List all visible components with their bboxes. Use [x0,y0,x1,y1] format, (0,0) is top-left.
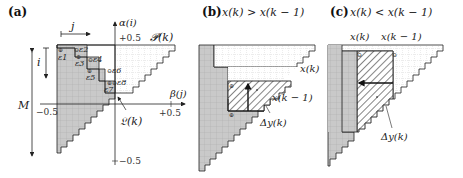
epsilon-6: ε6 [112,66,121,75]
minus-marker-right-c: ⊖ [392,51,397,58]
alpha-label: α(i) [119,17,137,28]
i-label: i [37,56,41,69]
epsilon-8: ε8 [117,78,126,87]
panel-b: (b) x(k) > x(k − 1) ⊕ ⊕ x(k) x(k − 1) Δy… [199,5,320,171]
x-k-minus-1-label-c: x(k − 1) [381,31,422,42]
dy-pointer-c [386,106,392,128]
dot-b [256,89,258,91]
dot-c [376,96,378,98]
delta-y-label-b: Δy(k) [259,117,287,128]
epsilon-1: ε1 [58,53,67,62]
x-k-minus-1-label-b: x(k − 1) [272,92,313,103]
x-k-label-b: x(k) [300,63,320,74]
tick-left: −0.5 [36,107,58,117]
figure-canvas: (a) j i M ⊕ ε1 ⊖ ε2 ⊕ ε3 ⊖ ε4 ⊕ ε5 [0,0,463,178]
M-label: M [17,99,30,112]
panel-c: (c) x(k) < x(k − 1) x(k) x(k − 1) ⊖ ⊖ Δy… [328,5,443,166]
j-label: j [68,20,75,33]
L-label: 𝔏(k) [120,115,142,128]
delta-y-region-c [357,51,393,132]
panel-c-title: x(k) < x(k − 1) [350,6,432,19]
beta-label: β(j) [169,88,187,99]
dy-pointer-b [266,106,270,113]
plus-marker-bottom-b: ⊕ [229,111,234,118]
gray-region-c-2 [328,45,342,132]
epsilon-3: ε3 [75,59,84,68]
panel-a: (a) j i M ⊕ ε1 ⊖ ε2 ⊕ ε3 ⊖ ε4 ⊕ ε5 [8,5,187,166]
delta-y-label-c: Δy(k) [380,131,408,142]
P-region-b-2 [228,67,297,81]
plus-marker-top-b: ⊕ [229,82,234,89]
minus-marker-left-c: ⊖ [357,51,362,58]
panel-c-tag: (c) [330,5,349,19]
panel-b-title: x(k) > x(k − 1) [222,6,304,19]
tick-top: +0.5 [119,33,141,43]
P-label: 𝓟(k) [150,31,173,44]
svg-text:⊕: ⊕ [58,46,63,53]
tick-bottom: −0.5 [119,156,141,166]
epsilon-4: ε4 [93,55,102,64]
L-pointer [118,97,126,110]
gray-strip-c [342,51,357,132]
x-k-label-c: x(k) [350,31,370,42]
epsilon-5: ε5 [86,73,95,82]
epsilon-7: ε7 [104,85,114,94]
panel-b-tag: (b) [202,5,222,19]
tick-right: +0.5 [159,108,181,118]
panel-a-tag: (a) [8,5,27,19]
